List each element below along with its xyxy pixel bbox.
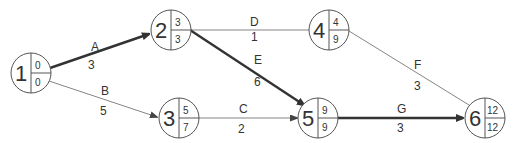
edge-g-duration: 3	[397, 121, 404, 135]
edge-d-duration: 1	[251, 30, 258, 44]
node-3-late: 7	[183, 122, 189, 133]
node-5-id: 5	[302, 106, 314, 131]
edge-b-activity: B	[101, 84, 109, 98]
node-3: 3 5 7	[159, 98, 199, 138]
node-1-late: 0	[35, 77, 41, 88]
edge-c-activity: C	[239, 102, 248, 116]
edge-a: A 3	[50, 34, 149, 72]
edge-c: C 2	[198, 102, 297, 136]
edge-e-duration: 6	[254, 75, 261, 89]
edge-b: B 5	[49, 81, 157, 118]
edge-d-activity: D	[250, 15, 259, 29]
edge-f-duration: 3	[414, 79, 421, 93]
node-4-late: 9	[333, 34, 339, 45]
node-6-early: 12	[487, 105, 499, 116]
node-1: 1 0 0	[11, 53, 51, 93]
node-2-id: 2	[155, 18, 167, 43]
node-3-id: 3	[163, 106, 175, 131]
edge-e: E 6	[190, 30, 304, 105]
edge-g: G 3	[338, 102, 463, 135]
node-4-early: 4	[333, 17, 339, 28]
network-diagram: A 3 B 5 D 1 E 6 C 2 F 3 G 3 1 0 0	[0, 0, 513, 143]
node-6: 6 12 12	[465, 98, 505, 138]
node-2-late: 3	[175, 34, 181, 45]
edge-a-duration: 3	[88, 58, 95, 72]
edge-f: F 3	[349, 31, 469, 105]
node-2-early: 3	[175, 17, 181, 28]
node-1-id: 1	[15, 61, 27, 86]
node-3-early: 5	[183, 105, 189, 116]
node-2: 2 3 3	[151, 10, 191, 50]
node-6-id: 6	[469, 106, 481, 131]
node-1-early: 0	[35, 60, 41, 71]
edge-f-activity: F	[414, 58, 421, 72]
edge-g-activity: G	[397, 102, 406, 116]
node-6-late: 12	[487, 122, 499, 133]
edge-a-activity: A	[91, 40, 99, 54]
node-5-early: 9	[322, 105, 328, 116]
edge-e-activity: E	[254, 53, 262, 67]
node-5-late: 9	[322, 122, 328, 133]
edge-b-duration: 5	[100, 104, 107, 118]
edge-c-duration: 2	[238, 122, 245, 136]
node-4-id: 4	[313, 18, 325, 43]
node-5: 5 9 9	[298, 98, 338, 138]
node-4: 4 4 9	[309, 10, 349, 50]
edge-d: D 1	[190, 15, 310, 44]
